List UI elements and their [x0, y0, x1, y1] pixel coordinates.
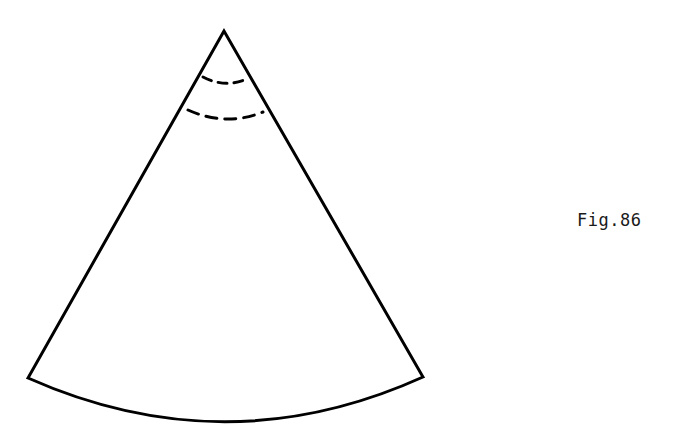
figure-label: Fig.86 — [577, 210, 641, 230]
